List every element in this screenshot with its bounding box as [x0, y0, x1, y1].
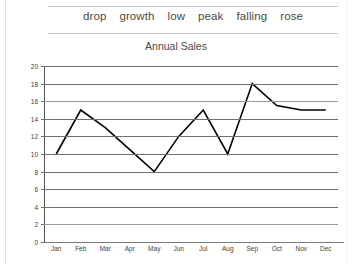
word-bank-word-list: drop growth low peak falling rose: [48, 10, 338, 22]
x-tick-label-oct: Oct: [264, 245, 290, 253]
x-tick-label-jul: Jul: [190, 245, 216, 253]
x-tick-label-mar: Mar: [92, 245, 118, 253]
word-bank-item-5[interactable]: rose: [280, 10, 303, 22]
x-tick-label-apr: Apr: [117, 245, 143, 253]
gridline-6: [44, 189, 338, 190]
word-bank-item-0[interactable]: drop: [83, 10, 106, 22]
y-tick-mark-20: [41, 66, 44, 67]
gridline-12: [44, 136, 338, 137]
word-bank: drop growth low peak falling rose: [48, 6, 338, 34]
y-tick-label-12: 12: [14, 133, 38, 140]
gridline-14: [44, 119, 338, 120]
gridline-8: [44, 172, 338, 173]
y-axis-labels: 02468101214161820: [10, 66, 38, 246]
gridline-10: [44, 154, 338, 155]
y-tick-label-6: 6: [14, 186, 38, 193]
x-tick-label-nov: Nov: [288, 245, 314, 253]
word-bank-item-3[interactable]: peak: [198, 10, 223, 22]
word-bank-item-1[interactable]: growth: [119, 10, 154, 22]
y-tick-mark-16: [41, 101, 44, 102]
word-bank-top-rule: [48, 6, 338, 7]
y-tick-mark-14: [41, 119, 44, 120]
y-tick-mark-18: [41, 84, 44, 85]
worksheet-page: drop growth low peak falling rose Annual…: [0, 0, 352, 264]
word-bank-item-2[interactable]: low: [168, 10, 186, 22]
gridline-20: [44, 66, 338, 67]
plot-area: [44, 66, 338, 242]
y-tick-label-10: 10: [14, 151, 38, 158]
gridline-2: [44, 224, 338, 225]
y-tick-label-2: 2: [14, 221, 38, 228]
word-bank-item-4[interactable]: falling: [236, 10, 267, 22]
y-tick-label-14: 14: [14, 116, 38, 123]
y-tick-mark-0: [41, 242, 44, 243]
x-tick-label-dec: Dec: [313, 245, 339, 253]
gridline-18: [44, 84, 338, 85]
word-bank-bottom-rule: [48, 33, 338, 34]
y-tick-mark-10: [41, 154, 44, 155]
y-tick-label-16: 16: [14, 98, 38, 105]
y-tick-label-4: 4: [14, 204, 38, 211]
y-tick-label-20: 20: [14, 63, 38, 70]
x-tick-label-jan: Jan: [43, 245, 69, 253]
gridline-16: [44, 101, 338, 102]
y-tick-mark-12: [41, 136, 44, 137]
x-tick-label-feb: Feb: [68, 245, 94, 253]
y-tick-mark-8: [41, 172, 44, 173]
x-tick-label-aug: Aug: [215, 245, 241, 253]
x-tick-label-sep: Sep: [239, 245, 265, 253]
y-tick-label-18: 18: [14, 81, 38, 88]
x-tick-label-jun: Jun: [166, 245, 192, 253]
y-tick-mark-6: [41, 189, 44, 190]
x-tick-label-may: May: [141, 245, 167, 253]
y-tick-label-8: 8: [14, 169, 38, 176]
x-axis-labels: JanFebMarAprMayJunJulAugSepOctNovDec: [44, 245, 344, 259]
y-tick-mark-2: [41, 224, 44, 225]
line-chart: Annual Sales 02468101214161820 JanFebMar…: [0, 40, 352, 264]
gridline-4: [44, 207, 338, 208]
chart-title: Annual Sales: [0, 40, 352, 52]
y-tick-mark-4: [41, 207, 44, 208]
y-tick-label-0: 0: [14, 239, 38, 246]
